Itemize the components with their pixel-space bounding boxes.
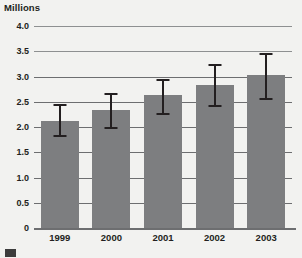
error-bar-stem-2001 (162, 79, 164, 115)
y-axis-tick-label: 4.0 (0, 21, 34, 31)
error-bar-cap-2002-upper (208, 64, 221, 66)
y-axis-tick-label: 0.5 (0, 198, 34, 208)
gridline (34, 51, 292, 52)
y-axis-tick-label: 0 (0, 223, 34, 233)
y-axis-tick-label: 3.5 (0, 46, 34, 56)
error-bar-cap-2000-lower (105, 127, 118, 129)
gridline (34, 26, 292, 27)
x-axis-tick-label-2001: 2001 (152, 232, 173, 243)
legend-swatch-icon (5, 249, 16, 257)
plot-area (34, 26, 292, 228)
error-bar-stem-1999 (59, 104, 61, 137)
y-axis-tick-label: 3.0 (0, 72, 34, 82)
error-bar-cap-2003-upper (260, 53, 273, 55)
error-bar-cap-2000-upper (105, 93, 118, 95)
error-bar-stem-2000 (110, 93, 112, 129)
y-axis-tick-label: 2.5 (0, 97, 34, 107)
x-axis-tick-label-1999: 1999 (49, 232, 70, 243)
error-bar-cap-2001-upper (157, 79, 170, 81)
x-axis-tick-label-2000: 2000 (101, 232, 122, 243)
x-axis-tick-label-2002: 2002 (204, 232, 225, 243)
error-bar-cap-2002-lower (208, 105, 221, 107)
error-bar-cap-1999-lower (53, 135, 66, 137)
x-axis-line (34, 228, 296, 230)
error-bar-stem-2003 (265, 53, 267, 99)
bar-2001[interactable] (144, 95, 182, 228)
y-axis-tick-label: 1.0 (0, 173, 34, 183)
error-bar-stem-2002 (214, 64, 216, 107)
bar-chart: Millions 4.03.53.02.52.01.51.00.50199920… (0, 0, 302, 258)
x-axis-tick-label-2003: 2003 (256, 232, 277, 243)
bar-1999[interactable] (41, 121, 79, 228)
y-axis-tick-label: 1.5 (0, 147, 34, 157)
y-axis-tick-label: 2.0 (0, 122, 34, 132)
error-bar-cap-2003-lower (260, 98, 273, 100)
error-bar-cap-2001-lower (157, 113, 170, 115)
error-bar-cap-1999-upper (53, 104, 66, 106)
y-axis-title: Millions (4, 2, 40, 13)
